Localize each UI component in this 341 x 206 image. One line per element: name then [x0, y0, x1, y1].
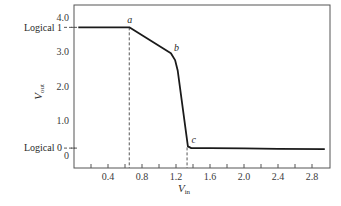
- x-tick-label: 1.6: [204, 171, 217, 182]
- svg-text:Vout: Vout: [32, 84, 46, 100]
- y-tick-label: 4.0: [57, 12, 70, 23]
- x-axis-title-sub: in: [185, 188, 191, 196]
- y-axis-title-sub: out: [38, 84, 46, 93]
- y-axis-title: Vout: [32, 84, 46, 100]
- transfer-curve: [78, 27, 324, 149]
- x-tick-label: 0.8: [136, 171, 149, 182]
- point-label-b: b: [174, 42, 179, 53]
- y-tick-label: 0: [64, 150, 69, 161]
- y-tick-label: 1.0: [57, 115, 70, 126]
- x-axis-title: Vin: [178, 182, 191, 196]
- point-label-a: a: [127, 14, 132, 25]
- logical-1-label: Logical 1: [24, 22, 62, 33]
- y-tick-label: 2.0: [57, 81, 70, 92]
- plot-frame: [74, 5, 330, 168]
- transfer-characteristic-chart: 0.40.81.21.62.02.42.8 4.03.02.01.00 abc …: [0, 0, 341, 206]
- y-tick-label: 3.0: [57, 46, 70, 57]
- x-tick-label: 2.8: [306, 171, 319, 182]
- x-axis-tick-labels: 0.40.81.21.62.02.42.8: [102, 171, 319, 182]
- point-label-c: c: [192, 134, 197, 145]
- x-tick-label: 2.0: [238, 171, 251, 182]
- reference-dashed-lines: [64, 27, 187, 168]
- x-axis-ticks: [91, 164, 312, 168]
- data-series: [78, 27, 324, 149]
- point-annotations: abc: [127, 14, 196, 145]
- x-tick-label: 1.2: [170, 171, 183, 182]
- plot-border: [74, 5, 330, 168]
- x-tick-label: 0.4: [102, 171, 115, 182]
- x-tick-label: 2.4: [272, 171, 285, 182]
- y-axis-tick-labels: 4.03.02.01.00: [57, 12, 70, 161]
- logical-0-label: Logical 0: [24, 142, 62, 153]
